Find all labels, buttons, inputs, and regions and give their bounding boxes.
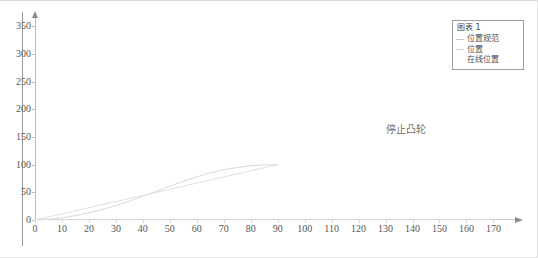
x-axis-arrow-icon (515, 217, 523, 223)
legend-entry: 位置规范 (456, 34, 520, 45)
x-tick-label: 120 (351, 224, 366, 234)
legend-entries: 位置规范位置在线位置 (456, 34, 520, 66)
x-tick-label: 170 (486, 224, 501, 234)
y-tick-label: 350 (16, 21, 31, 31)
x-tick-label: 10 (57, 224, 67, 234)
chart-series-layer (35, 18, 515, 220)
legend-entry: 在线位置 (456, 55, 520, 66)
x-tick-label: 80 (246, 224, 256, 234)
x-tick-label: 50 (165, 224, 175, 234)
chart-legend: 图表 1 位置规范位置在线位置 (452, 20, 524, 70)
legend-entry-label: 位置 (467, 45, 483, 56)
y-axis-arrow-icon (32, 11, 38, 18)
x-tick-label: 0 (33, 224, 38, 234)
x-tick-label: 70 (219, 224, 229, 234)
x-tick-label: 160 (459, 224, 474, 234)
x-tick-label: 40 (138, 224, 148, 234)
series-line (35, 165, 278, 220)
legend-title: 图表 1 (456, 23, 520, 34)
x-tick-label: 60 (192, 224, 202, 234)
x-tick-label: 150 (432, 224, 447, 234)
y-tick-label: 100 (16, 160, 31, 170)
legend-line-swatch-icon (456, 39, 464, 40)
x-tick-label: 20 (84, 224, 94, 234)
legend-entry-label: 位置规范 (467, 34, 499, 45)
y-tick-label: 250 (16, 77, 31, 87)
legend-line-swatch-icon (456, 49, 464, 50)
y-tick-label: 200 (16, 104, 31, 114)
y-tick-label: 150 (16, 132, 31, 142)
y-tick-label: 300 (16, 49, 31, 59)
x-tick-label: 130 (378, 224, 393, 234)
stop-cam-annotation: 停止凸轮 (386, 121, 426, 136)
x-tick-label: 100 (297, 224, 312, 234)
x-tick-label: 140 (405, 224, 420, 234)
chart-plot-area: 050100150200250300350 010203040506070809… (35, 18, 515, 220)
x-tick-label: 30 (111, 224, 121, 234)
x-tick-label: 90 (273, 224, 283, 234)
legend-entry-label: 在线位置 (467, 55, 499, 66)
x-tick-label: 110 (324, 224, 339, 234)
y-tick-label: 50 (21, 187, 31, 197)
y-tick-label: 0 (26, 215, 31, 225)
legend-entry: 位置 (456, 45, 520, 56)
